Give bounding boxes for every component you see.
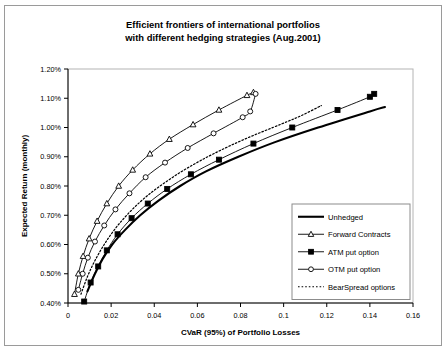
- data-point-marker: [104, 248, 109, 253]
- data-point-marker: [85, 255, 90, 260]
- data-point-marker: [244, 92, 250, 97]
- legend-label: Forward Contracts: [328, 230, 391, 239]
- y-tick-label: 0.90%: [40, 152, 61, 161]
- data-point-marker: [166, 136, 172, 141]
- y-tick-label: 0.70%: [40, 211, 61, 220]
- y-tick-label: 1.20%: [40, 65, 61, 74]
- chart-figure: Efficient frontiers of international por…: [4, 5, 442, 346]
- data-point-marker: [92, 239, 97, 244]
- data-point-marker: [163, 160, 168, 165]
- data-point-marker: [76, 287, 81, 292]
- data-point-marker: [290, 125, 295, 130]
- data-point-marker: [80, 271, 85, 276]
- data-point-marker: [129, 216, 134, 221]
- data-point-marker: [190, 121, 196, 126]
- data-point-marker: [113, 207, 118, 212]
- data-point-marker: [127, 191, 132, 196]
- chart-title: Efficient frontiers of international por…: [124, 19, 320, 43]
- data-point-marker: [145, 201, 150, 206]
- data-point-marker: [143, 175, 148, 180]
- x-tick-label: 0.12: [320, 311, 334, 320]
- data-point-marker: [309, 267, 314, 272]
- data-point-marker: [240, 115, 245, 120]
- chart-legend: UnhedgedForward ContractsATM put optionO…: [292, 204, 410, 300]
- data-point-marker: [309, 249, 314, 254]
- legend-label: BearSpread options: [328, 283, 395, 292]
- x-tick-label: 0: [66, 311, 70, 320]
- chart-title-line-2: with different hedging strategies (Aug.2…: [124, 32, 320, 43]
- data-point-marker: [216, 157, 221, 162]
- x-axis-title: CVaR (95%) of Portfolio Losses: [181, 328, 301, 337]
- data-point-marker: [104, 200, 110, 205]
- data-point-marker: [188, 172, 193, 177]
- y-tick-label: 0.60%: [40, 240, 61, 249]
- x-tick-label: 0.04: [147, 311, 161, 320]
- data-point-marker: [248, 109, 253, 114]
- legend-label: Unhedged: [328, 213, 363, 222]
- series-line: [81, 106, 321, 295]
- data-point-marker: [165, 186, 170, 191]
- y-tick-label: 0.50%: [40, 269, 61, 278]
- data-point-marker: [82, 299, 87, 304]
- data-point-marker: [96, 264, 101, 269]
- x-tick-label: 0.06: [190, 311, 204, 320]
- data-point-marker: [115, 232, 120, 237]
- data-point-marker: [88, 280, 93, 285]
- data-point-marker: [335, 107, 340, 112]
- y-axis-title: Expected Return (monthly): [20, 135, 29, 238]
- y-tick-label: 0.40%: [40, 299, 61, 308]
- efficient-frontier-chart: Efficient frontiers of international por…: [5, 6, 441, 345]
- data-point-marker: [185, 145, 190, 150]
- chart-title-line-1: Efficient frontiers of international por…: [126, 19, 320, 30]
- legend-label: OTM put option: [328, 265, 380, 274]
- x-tick-label: 0.14: [363, 311, 377, 320]
- x-tick-label: 0.08: [233, 311, 247, 320]
- x-tick-label: 0.16: [406, 311, 420, 320]
- data-point-marker: [147, 151, 153, 156]
- data-point-marker: [102, 223, 107, 228]
- data-point-marker: [372, 91, 377, 96]
- data-point-marker: [86, 236, 92, 241]
- y-axis-ticks: 0.40%0.50%0.60%0.70%0.80%0.90%1.00%1.10%…: [40, 65, 68, 308]
- y-tick-label: 0.80%: [40, 182, 61, 191]
- x-axis-ticks: 00.020.040.060.080.10.120.140.16: [66, 303, 420, 320]
- data-point-marker: [94, 218, 100, 223]
- data-point-marker: [253, 91, 258, 96]
- data-point-marker: [216, 107, 222, 112]
- y-tick-label: 1.10%: [40, 94, 61, 103]
- data-point-marker: [251, 141, 256, 146]
- series-line: [74, 92, 253, 294]
- data-point-marker: [211, 131, 216, 136]
- x-tick-label: 0.1: [279, 311, 289, 320]
- series-bearspread-options: [81, 106, 321, 295]
- y-tick-label: 1.00%: [40, 123, 61, 132]
- x-tick-label: 0.02: [104, 311, 118, 320]
- legend-label: ATM put option: [328, 248, 379, 257]
